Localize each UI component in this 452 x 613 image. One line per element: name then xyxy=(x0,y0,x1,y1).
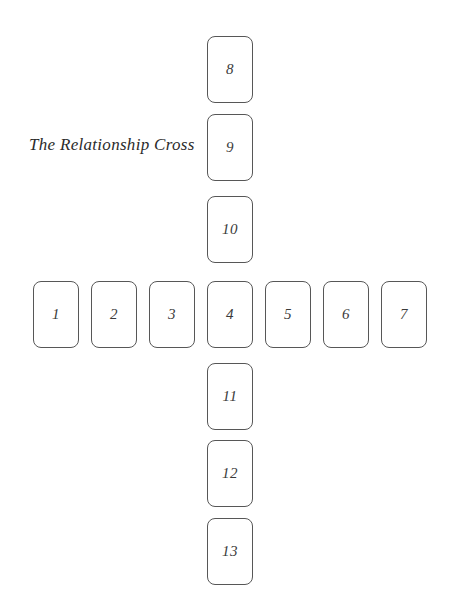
card-position-12[interactable]: 12 xyxy=(207,440,253,507)
card-position-10[interactable]: 10 xyxy=(207,196,253,263)
card-number-label: 1 xyxy=(52,307,60,322)
card-position-11[interactable]: 11 xyxy=(207,363,253,430)
card-position-7[interactable]: 7 xyxy=(381,281,427,348)
card-position-13[interactable]: 13 xyxy=(207,518,253,585)
card-position-8[interactable]: 8 xyxy=(207,36,253,103)
card-number-label: 8 xyxy=(226,62,234,77)
card-position-6[interactable]: 6 xyxy=(323,281,369,348)
card-position-3[interactable]: 3 xyxy=(149,281,195,348)
card-number-label: 3 xyxy=(168,307,176,322)
card-number-label: 10 xyxy=(222,222,238,237)
card-number-label: 11 xyxy=(223,389,238,404)
card-number-label: 5 xyxy=(284,307,292,322)
card-number-label: 4 xyxy=(226,307,234,322)
card-position-5[interactable]: 5 xyxy=(265,281,311,348)
card-position-4[interactable]: 4 xyxy=(207,281,253,348)
card-position-9[interactable]: 9 xyxy=(207,114,253,181)
spread-canvas: The Relationship Cross 12345678910111213 xyxy=(0,0,452,613)
card-position-1[interactable]: 1 xyxy=(33,281,79,348)
card-number-label: 7 xyxy=(400,307,408,322)
page-title: The Relationship Cross xyxy=(29,134,201,156)
card-position-2[interactable]: 2 xyxy=(91,281,137,348)
card-number-label: 13 xyxy=(222,544,238,559)
card-number-label: 12 xyxy=(222,466,238,481)
card-number-label: 6 xyxy=(342,307,350,322)
card-number-label: 9 xyxy=(226,140,234,155)
card-number-label: 2 xyxy=(110,307,118,322)
